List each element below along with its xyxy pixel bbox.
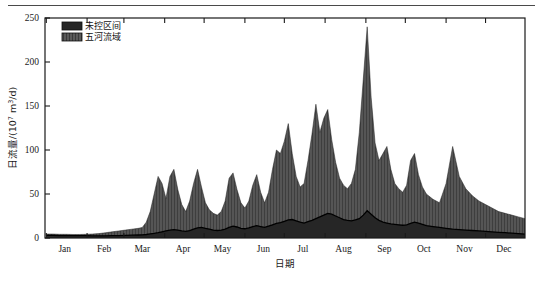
x-tick-label-sep: Sep (377, 244, 392, 254)
legend-label-2: 五河流域 (85, 31, 121, 42)
y-tick-label: 100 (25, 145, 40, 155)
y-axis-title: 日流量/(107 m3/d) (7, 87, 18, 170)
x-tick-label-dec: Dec (496, 244, 511, 254)
y-tick-label: 150 (25, 101, 40, 111)
y-axis-title-tail: /d) (7, 87, 18, 100)
y-tick-label: 250 (25, 13, 40, 23)
y-tick-label: 50 (30, 189, 40, 199)
x-tick-label-mar: Mar (134, 244, 151, 254)
svg-text:日流量/(107 m3/d): 日流量/(107 m3/d) (7, 87, 18, 170)
x-tick-label-may: May (214, 244, 232, 254)
y-tick-label: 200 (25, 57, 40, 67)
legend-swatch-uncontrolled (62, 22, 82, 30)
y-axis-title-prefix: 日流量/(10 (7, 120, 18, 169)
x-tick-label-apr: Apr (176, 244, 192, 254)
y-tick-label: 0 (34, 233, 39, 243)
x-tick-label-nov: Nov (456, 244, 473, 254)
figure-container: 050100150200250 JanFebMarAprMayJunJulAug… (0, 0, 543, 282)
flow-area-chart: 050100150200250 JanFebMarAprMayJunJulAug… (0, 0, 543, 282)
x-tick-label-feb: Feb (97, 244, 112, 254)
x-tick-label-jul: Jul (297, 244, 308, 254)
legend-swatch-five-rivers (62, 33, 82, 41)
legend-label-1: 未控区间 (85, 20, 121, 31)
x-axis-title: 日期 (275, 258, 295, 269)
y-axis-title-mid: m (7, 104, 18, 116)
x-tick-label-aug: Aug (335, 244, 352, 254)
x-tick-label-jun: Jun (257, 244, 270, 254)
x-tick-label-jan: Jan (58, 244, 71, 254)
x-tick-label-oct: Oct (417, 244, 431, 254)
